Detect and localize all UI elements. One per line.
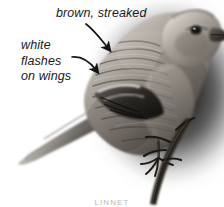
label-white-flashes: white flashes on wings [21,38,71,85]
label-white-flashes-line-2: flashes [21,54,71,70]
arrow-brown-streaked [86,24,108,48]
arrow-white-flashes [72,57,96,70]
figure-caption: LINNET [0,196,224,207]
label-white-flashes-line-3: on wings [21,69,71,85]
label-brown-streaked: brown, streaked [56,6,146,20]
bird-annotation-figure: brown, streaked white flashes on wings L… [0,0,224,207]
annotation-arrows [0,0,224,207]
label-white-flashes-line-1: white [21,38,71,54]
